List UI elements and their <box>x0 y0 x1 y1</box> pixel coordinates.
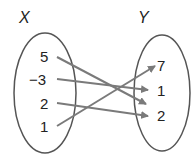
domain-element: 5 <box>40 49 48 64</box>
domain-element: −3 <box>29 72 46 87</box>
range-element: 7 <box>157 58 165 73</box>
domain-element: 2 <box>40 96 48 111</box>
range-element: 2 <box>157 108 165 123</box>
domain-set-label: X <box>19 10 30 26</box>
arrow-1-to-7 <box>57 66 155 126</box>
range-element: 1 <box>157 83 165 98</box>
range-set-label: Y <box>138 10 149 26</box>
domain-element: 1 <box>40 119 48 134</box>
